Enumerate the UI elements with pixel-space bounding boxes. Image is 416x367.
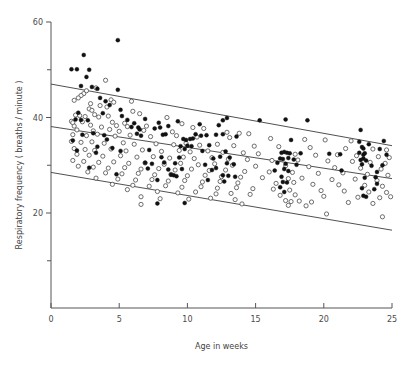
data-point-open <box>274 181 278 185</box>
data-point-open <box>297 199 301 203</box>
data-point-filled <box>74 117 78 121</box>
data-point-open <box>198 143 202 147</box>
scatter-plot-figure: 2040600510152025Age in weeksRespiratory … <box>0 0 416 367</box>
data-point-open <box>125 188 129 192</box>
data-point-open <box>380 215 384 219</box>
data-point-open <box>72 98 76 102</box>
data-point-filled <box>199 134 203 138</box>
data-point-filled <box>153 126 157 130</box>
data-point-filled <box>284 117 288 121</box>
data-point-filled <box>79 84 83 88</box>
data-point-open <box>353 177 357 181</box>
data-point-filled <box>116 38 120 42</box>
data-point-filled <box>364 158 368 162</box>
data-point-filled <box>225 116 229 120</box>
x-tick-label: 0 <box>48 315 53 324</box>
data-point-filled <box>359 128 363 132</box>
data-point-open <box>296 158 300 162</box>
data-point-open <box>140 148 144 152</box>
data-point-filled <box>286 169 290 173</box>
data-point-open <box>170 130 174 134</box>
data-point-open <box>380 184 384 188</box>
data-point-filled <box>288 151 292 155</box>
data-point-open <box>90 108 94 112</box>
data-point-open <box>98 103 102 107</box>
data-point-filled <box>205 133 209 137</box>
data-point-filled <box>90 85 94 89</box>
data-point-open <box>359 166 363 170</box>
data-point-open <box>356 195 360 199</box>
data-point-open <box>193 190 197 194</box>
data-point-open <box>103 78 107 82</box>
data-point-open <box>82 159 86 163</box>
data-point-open <box>203 173 207 177</box>
data-point-open <box>202 126 206 130</box>
data-point-open <box>314 153 318 157</box>
data-point-filled <box>375 182 379 186</box>
data-point-open <box>99 125 103 129</box>
data-point-open <box>248 192 252 196</box>
data-point-open <box>144 124 148 128</box>
data-point-filled <box>166 124 170 128</box>
data-point-open <box>214 192 218 196</box>
data-point-filled <box>361 147 365 151</box>
data-point-filled <box>183 147 187 151</box>
data-point-open <box>154 142 158 146</box>
data-point-filled <box>282 190 286 194</box>
data-point-filled <box>367 142 371 146</box>
data-point-open <box>106 166 110 170</box>
data-point-open <box>123 166 127 170</box>
data-point-filled <box>203 163 207 167</box>
data-point-open <box>71 158 75 162</box>
data-point-open <box>75 128 79 132</box>
data-point-open <box>142 128 146 132</box>
data-point-filled <box>221 118 225 122</box>
data-point-open <box>95 132 99 136</box>
x-tick-label: 25 <box>387 315 397 324</box>
data-point-filled <box>218 155 222 159</box>
data-point-open <box>243 169 247 173</box>
data-point-filled <box>382 139 386 143</box>
data-point-filled <box>385 153 389 157</box>
data-point-open <box>376 155 380 159</box>
data-point-open <box>93 113 97 117</box>
data-point-filled <box>284 162 288 166</box>
axes <box>46 22 392 308</box>
data-point-open <box>300 176 304 180</box>
data-point-filled <box>71 138 75 142</box>
data-point-open <box>213 162 217 166</box>
data-point-open <box>83 114 87 118</box>
data-point-filled <box>104 99 108 103</box>
data-point-open <box>180 122 184 126</box>
data-point-filled <box>155 178 159 182</box>
data-point-open <box>252 144 256 148</box>
data-point-filled <box>82 53 86 57</box>
data-point-filled <box>278 185 282 189</box>
data-point-open <box>176 191 180 195</box>
y-axis-title: Respiratory frequency ( breaths / minute… <box>15 81 24 250</box>
data-point-open <box>307 165 311 169</box>
data-point-open <box>97 115 101 119</box>
data-point-open <box>326 159 330 163</box>
data-point-open <box>367 190 371 194</box>
data-point-filled <box>221 173 225 177</box>
data-point-filled <box>75 148 79 152</box>
data-point-open <box>139 202 143 206</box>
data-point-filled <box>280 175 284 179</box>
data-point-open <box>379 167 383 171</box>
data-point-filled <box>132 121 136 125</box>
data-point-open <box>189 167 193 171</box>
data-point-filled <box>84 75 88 79</box>
data-point-open <box>71 133 75 137</box>
data-point-open <box>234 186 238 190</box>
data-point-filled <box>150 162 154 166</box>
data-point-open <box>247 132 251 136</box>
data-point-open <box>330 177 334 181</box>
data-point-filled <box>146 167 150 171</box>
data-point-open <box>136 171 140 175</box>
data-point-open <box>269 136 273 140</box>
data-point-open <box>196 163 200 167</box>
data-point-filled <box>79 118 83 122</box>
data-point-open <box>148 135 152 139</box>
data-point-open <box>365 172 369 176</box>
